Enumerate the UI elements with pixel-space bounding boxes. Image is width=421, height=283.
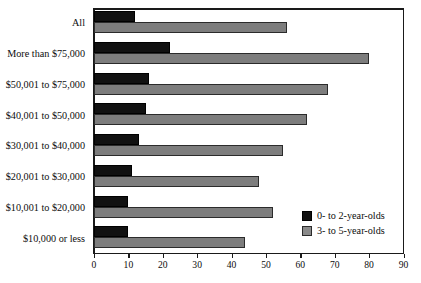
bar — [94, 114, 307, 125]
bar-group — [94, 134, 404, 159]
legend-swatch-icon — [302, 211, 312, 221]
category-label: $10,000 or less — [0, 233, 85, 244]
bar — [94, 134, 139, 145]
bar-group — [94, 165, 404, 190]
legend-label: 3- to 5-year-olds — [317, 225, 385, 237]
category-axis-labels: AllMore than $75,000$50,001 to $75,000$4… — [0, 8, 88, 254]
bar — [94, 103, 146, 114]
category-label: All — [0, 17, 85, 28]
category-label: $10,001 to $20,000 — [0, 202, 85, 213]
x-axis-tick — [266, 254, 267, 258]
bar — [94, 165, 132, 176]
x-axis-tick — [163, 254, 164, 258]
x-axis-tick — [369, 254, 370, 258]
x-axis-tick-label: 80 — [354, 259, 384, 270]
bar — [94, 237, 245, 248]
x-axis-tick-label: 10 — [113, 259, 143, 270]
bar — [94, 84, 328, 95]
bar-group — [94, 42, 404, 67]
bar-group — [94, 103, 404, 128]
category-label: $20,001 to $30,000 — [0, 171, 85, 182]
legend-label: 0- to 2-year-olds — [317, 210, 385, 222]
plot-border-top — [93, 8, 404, 10]
bar — [94, 196, 128, 207]
x-axis-tick-label: 90 — [389, 259, 419, 270]
bar-group — [94, 73, 404, 98]
category-label: $30,001 to $40,000 — [0, 140, 85, 151]
bar-chart: AllMore than $75,000$50,001 to $75,000$4… — [0, 0, 421, 283]
legend-swatch-icon — [302, 226, 312, 236]
category-label: $50,001 to $75,000 — [0, 79, 85, 90]
x-axis-tick-label: 70 — [320, 259, 350, 270]
x-axis-tick — [404, 254, 405, 258]
x-axis-tick-label: 30 — [182, 259, 212, 270]
x-axis-tick-label: 60 — [285, 259, 315, 270]
x-axis-tick — [300, 254, 301, 258]
bar — [94, 73, 149, 84]
bar — [94, 207, 273, 218]
bar — [94, 226, 128, 237]
bar — [94, 53, 369, 64]
x-axis-tick-label: 40 — [217, 259, 247, 270]
chart-legend: 0- to 2-year-olds 3- to 5-year-olds — [302, 208, 408, 238]
bar — [94, 42, 170, 53]
bar — [94, 176, 259, 187]
legend-item-0-to-2-year-olds: 0- to 2-year-olds — [302, 208, 408, 223]
x-axis-tick — [94, 254, 95, 258]
bar — [94, 145, 283, 156]
x-axis-tick-label: 20 — [148, 259, 178, 270]
x-axis-tick — [232, 254, 233, 258]
x-axis-tick-label: 50 — [251, 259, 281, 270]
x-axis-tick-label: 0 — [79, 259, 109, 270]
category-label: More than $75,000 — [0, 48, 85, 59]
category-label: $40,001 to $50,000 — [0, 110, 85, 121]
bar-group — [94, 11, 404, 36]
x-axis: 0102030405060708090 — [93, 254, 404, 280]
x-axis-tick — [335, 254, 336, 258]
x-axis-tick — [128, 254, 129, 258]
x-axis-tick — [197, 254, 198, 258]
bar — [94, 11, 135, 22]
legend-item-3-to-5-year-olds: 3- to 5-year-olds — [302, 223, 408, 238]
bar — [94, 22, 287, 33]
